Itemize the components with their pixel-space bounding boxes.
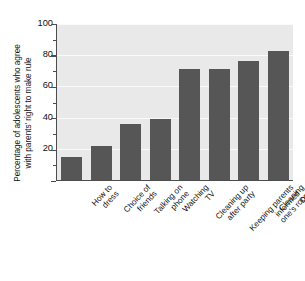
bar	[91, 146, 112, 180]
bar	[179, 69, 200, 180]
x-axis-tick-labels: How todressChoice offriendsTalking onpho…	[57, 181, 305, 281]
x-tick-label: How todress	[90, 183, 121, 214]
bar-chart-figure: Percentage of adolescents who agree with…	[0, 0, 305, 281]
bar	[120, 124, 141, 180]
bar	[268, 51, 289, 180]
bars-layer	[57, 24, 293, 180]
x-tick-label: Choice offriends	[122, 183, 159, 221]
y-axis-tick-labels: 100 80 60 40 20	[26, 24, 53, 180]
x-tick-label: WatchingTV	[181, 183, 218, 221]
y-axis-title-line-1: Percentage of adolescents who agree	[12, 44, 23, 182]
x-tick-label: Cleaning upafter party	[214, 183, 258, 228]
y-tick-label-80: 80	[26, 51, 53, 60]
bar	[209, 69, 230, 180]
y-tick-label-40: 40	[26, 113, 53, 122]
bar	[238, 61, 259, 180]
plot-area	[57, 24, 293, 180]
bar	[150, 119, 171, 180]
y-tick-label-100: 100	[26, 19, 53, 28]
bar	[61, 157, 82, 180]
y-tick-label-60: 60	[26, 82, 53, 91]
y-tick-label-20: 20	[26, 144, 53, 153]
